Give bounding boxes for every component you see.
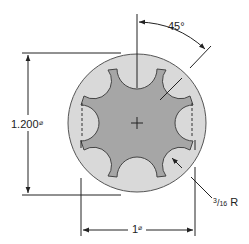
diameter-symbol-icon: ⌀ [39,119,43,126]
angle-value: 45° [168,20,185,32]
angle-label: 45° [168,21,185,32]
outer-diameter-label: 1.200⌀ [11,119,43,130]
diameter-symbol-icon: ⌀ [138,224,142,231]
outer-diameter-value: 1.200 [11,118,39,130]
radius-leader [191,177,212,198]
angle-extension-45 [190,46,211,68]
radius-denominator: 16 [219,200,227,207]
inner-diameter-label: 1⌀ [132,224,142,235]
radius-suffix: R [230,196,238,208]
scallop-radius-label: 3/16 R [213,197,238,208]
